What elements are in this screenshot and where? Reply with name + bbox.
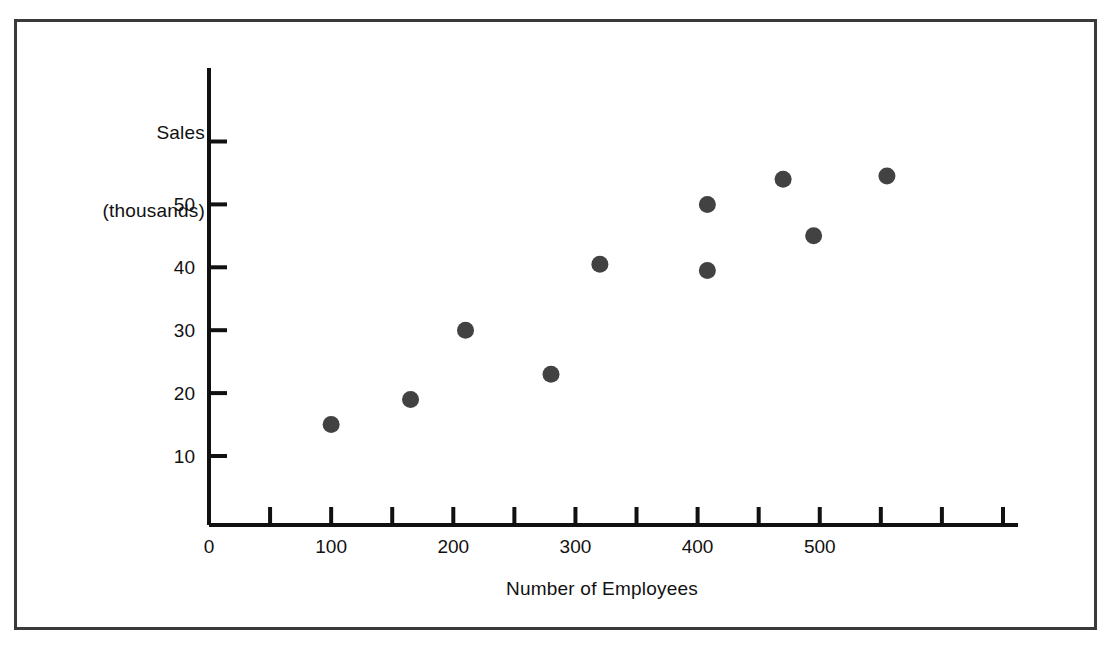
- x-axis-ticks: [270, 507, 1003, 525]
- x-tick-label: 200: [437, 536, 469, 557]
- x-tick-label: 400: [682, 536, 714, 557]
- y-axis-title-line1: Sales: [0, 120, 205, 146]
- data-point: [805, 227, 822, 244]
- x-tick-label: 0: [204, 536, 215, 557]
- y-tick-label: 10: [174, 446, 195, 467]
- data-point: [402, 391, 419, 408]
- y-axis-ticks: [209, 142, 227, 457]
- data-point: [323, 416, 340, 433]
- y-tick-label: 30: [174, 320, 195, 341]
- x-axis-title: Number of Employees: [209, 578, 995, 600]
- data-point: [543, 366, 560, 383]
- y-axis-title-line2: (thousands): [0, 198, 205, 224]
- scatter-plot-figure: 0100200300400500 1020304050 Sales (thous…: [0, 0, 1113, 651]
- data-point: [591, 256, 608, 273]
- x-tick-label: 500: [804, 536, 836, 557]
- data-points: [323, 168, 896, 433]
- x-tick-label: 100: [315, 536, 347, 557]
- data-point: [775, 171, 792, 188]
- axes: [209, 68, 1018, 525]
- data-point: [699, 196, 716, 213]
- y-tick-label: 20: [174, 383, 195, 404]
- data-point: [878, 168, 895, 185]
- data-point: [457, 322, 474, 339]
- y-axis-title: Sales (thousands): [0, 68, 205, 276]
- x-tick-label: 300: [560, 536, 592, 557]
- x-axis-tick-labels: 0100200300400500: [204, 536, 836, 557]
- data-point: [699, 262, 716, 279]
